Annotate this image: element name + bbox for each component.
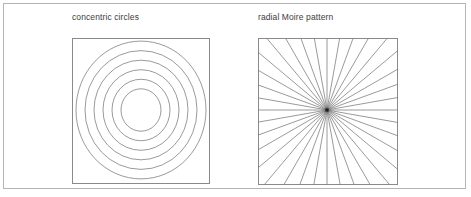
panel-concentric-circles <box>72 38 210 184</box>
ring-3 <box>103 70 179 151</box>
ring-6 <box>76 41 206 179</box>
caption-concentric-circles: concentric circles <box>72 12 139 23</box>
radial-center-dot <box>325 108 328 111</box>
radial-moire-svg <box>258 38 398 185</box>
concentric-rings-group <box>76 41 206 179</box>
ring-5 <box>85 51 197 170</box>
caption-radial-moire-pattern: radial Moire pattern <box>258 12 333 23</box>
panel-radial-moire <box>258 38 398 185</box>
concentric-circles-svg <box>72 38 210 184</box>
figure-container: concentric circles radial Moire pattern <box>0 0 471 197</box>
ring-1 <box>121 89 161 131</box>
ring-4 <box>94 60 188 160</box>
